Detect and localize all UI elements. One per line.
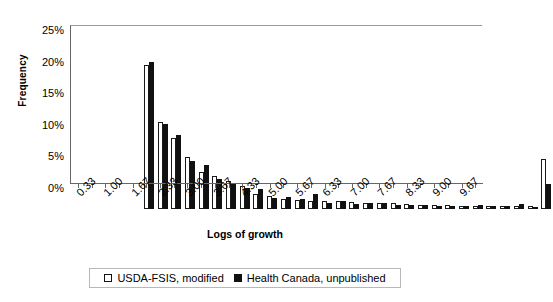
y-tick-label: 5% bbox=[48, 151, 64, 162]
chart-legend: USDA-FSIS, modified Health Canada, unpub… bbox=[89, 268, 401, 288]
x-axis-tick-labels: 0.331.001.672.333.003.674.335.005.676.33… bbox=[71, 186, 482, 226]
legend-label: USDA-FSIS, modified bbox=[117, 272, 223, 284]
bar-group bbox=[485, 51, 499, 209]
legend-label: Health Canada, unpublished bbox=[247, 272, 386, 284]
bar bbox=[519, 204, 524, 209]
legend-swatch-filled-square-icon bbox=[234, 274, 242, 282]
y-tick-label: 10% bbox=[42, 120, 64, 131]
bar-group bbox=[526, 51, 540, 209]
bar bbox=[546, 184, 551, 209]
bar bbox=[505, 206, 510, 209]
y-tick-label: 0% bbox=[48, 183, 64, 194]
plot-area bbox=[70, 25, 482, 183]
y-axis-tick-labels: 0%5%10%15%20%25% bbox=[18, 18, 64, 190]
legend-swatch-hollow-square-icon bbox=[104, 274, 112, 282]
y-tick-label: 20% bbox=[42, 57, 64, 68]
legend-item-usda-fsis: USDA-FSIS, modified bbox=[104, 272, 223, 284]
bar-group bbox=[512, 51, 526, 209]
y-tick-label: 15% bbox=[42, 88, 64, 99]
bar-group bbox=[539, 51, 553, 209]
legend-item-health-canada: Health Canada, unpublished bbox=[234, 272, 386, 284]
x-axis-title: Logs of growth bbox=[0, 228, 490, 240]
y-tick-label: 25% bbox=[42, 25, 64, 36]
bar bbox=[491, 206, 496, 209]
bar-group bbox=[498, 51, 512, 209]
bar bbox=[533, 207, 538, 209]
